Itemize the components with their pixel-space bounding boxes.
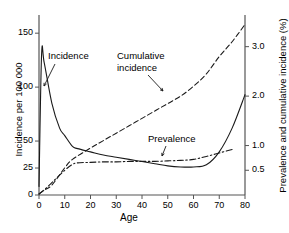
y-tick-label-right: 1.0 [252,140,282,150]
incidence-series-label: Incidence [48,50,89,61]
x-tick-label: 50 [156,200,180,210]
y-tick-label-left: 50 [0,135,33,145]
x-tick-label: 30 [104,200,128,210]
series-line-prevalence [39,150,232,195]
axes-group [39,15,245,195]
x-tick-label: 0 [27,200,51,210]
plot-area [0,0,289,233]
prevalence-series-label: Prevalence [148,133,196,144]
chart-figure: Incidence per 100 000 Prevalence and cum… [0,0,289,233]
y-tick-label-left: 0 [0,189,33,199]
cumulative-incidence-series-label-line1: Cumulative [117,50,165,61]
cumulative-incidence-leader [148,75,163,91]
y-tick-label-left: 150 [0,27,33,37]
y-tick-label-left: 25 [0,162,33,172]
x-tick-label: 80 [233,200,257,210]
y-tick-label-left: 100 [0,81,33,91]
cumulative-incidence-series-label-line2: incidence [117,62,157,73]
y-tick-label-right: 2.0 [252,90,282,100]
y-tick-label-right: 0.5 [252,164,282,174]
x-tick-label: 60 [182,200,206,210]
x-axis-title: Age [120,212,138,223]
y-axis-left-title: Incidence per 100 000 [13,47,24,172]
x-tick-label: 10 [53,200,77,210]
x-tick-label: 70 [207,200,231,210]
x-tick-label: 20 [79,200,103,210]
y-tick-label-right: 3.0 [252,41,282,51]
x-tick-label: 40 [130,200,154,210]
